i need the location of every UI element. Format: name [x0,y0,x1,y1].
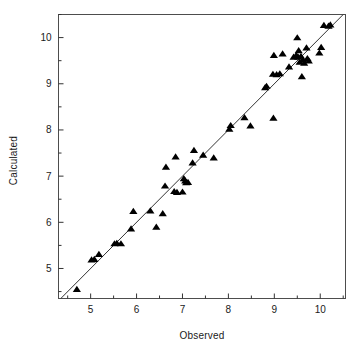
scatter-plot-figure: 5678910 5678910 Calculated Observed [0,0,361,354]
x-tick-label: 5 [88,304,94,315]
y-tick-label: 5 [46,263,52,274]
x-tick-label: 8 [226,304,232,315]
y-tick-label: 7 [46,171,52,182]
x-tick-label: 9 [272,304,278,315]
x-tick-label: 6 [134,304,140,315]
y-tick-label: 8 [46,124,52,135]
y-tick-label: 10 [40,32,52,43]
y-axis-title: Calculated [8,125,19,197]
x-tick-label: 10 [315,304,327,315]
x-axis-tick-labels: 5678910 [88,304,326,315]
x-axis-title: Observed [58,330,346,341]
plot-canvas: 5678910 5678910 [0,0,361,354]
x-tick-label: 7 [180,304,186,315]
y-axis-tick-labels: 5678910 [40,32,52,274]
y-tick-label: 9 [46,78,52,89]
y-tick-label: 6 [46,217,52,228]
